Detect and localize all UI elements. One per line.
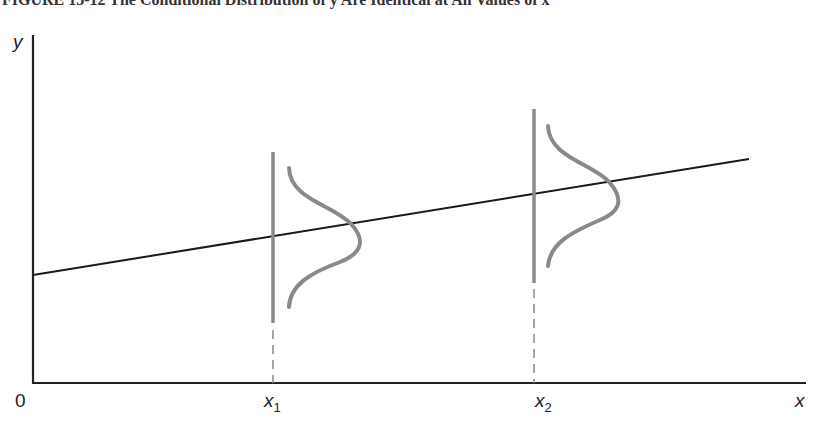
x2-normal-distribution — [548, 126, 618, 266]
x-axis-label: x — [795, 390, 805, 412]
x2-tick-label: x2 — [535, 390, 552, 412]
x1-normal-distribution — [289, 168, 360, 307]
x1-tick-label: x1 — [264, 390, 281, 412]
regression-line — [33, 159, 749, 275]
origin-label: 0 — [15, 390, 26, 412]
regression-diagram — [0, 0, 824, 424]
y-axis-label: y — [13, 31, 23, 53]
